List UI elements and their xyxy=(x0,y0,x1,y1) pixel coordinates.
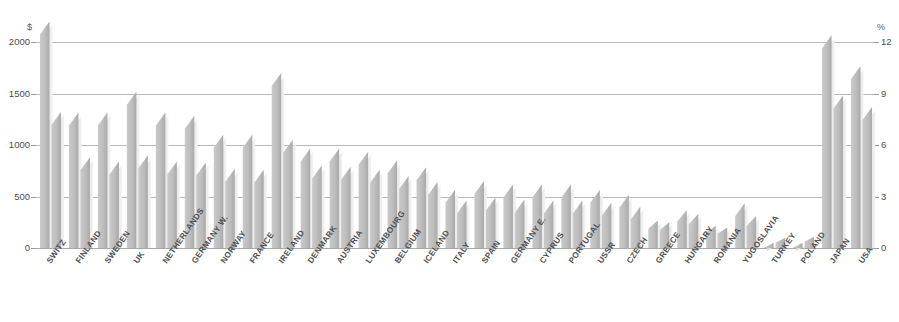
bar-dollar-austria xyxy=(341,167,351,248)
bar-percent-netherlands xyxy=(156,112,166,248)
bar-dollar-sweden xyxy=(109,161,119,248)
y-tick-right-9: 9 xyxy=(881,89,899,99)
bar-shadow-pct-22 xyxy=(680,213,690,248)
x-axis-label-switz: SWITZ xyxy=(45,238,68,265)
y-axis-left-unit-label: $ xyxy=(27,22,32,32)
bar-shadow-pct-1 xyxy=(72,115,82,248)
bar-dollar-netherlands xyxy=(167,161,177,248)
y-tick-mark-right xyxy=(874,42,879,43)
chart-container: $ % 0500100015002000 036912 SWITZFINLAND… xyxy=(0,0,899,322)
bar-shadow-dollar-3 xyxy=(141,158,151,248)
bar-shadow-pct-28 xyxy=(854,69,864,248)
x-axis-label-denmark: DENMARK xyxy=(306,224,339,265)
y-tick-right-12: 12 xyxy=(881,37,899,47)
y-tick-left-0: 0 xyxy=(0,243,30,253)
bar-dollar-uk xyxy=(138,155,148,248)
bar-shadow-pct-27 xyxy=(825,38,835,248)
y-tick-mark-left xyxy=(31,248,36,249)
bar-shadow-dollar-8 xyxy=(286,143,296,248)
bar-shadow-pct-24 xyxy=(738,206,748,248)
x-axis-label-austria: AUSTRIA xyxy=(335,228,364,265)
bar-shadow-dollar-28 xyxy=(866,110,876,248)
y-tick-right-3: 3 xyxy=(881,192,899,202)
x-axis-label-ireland: IRELAND xyxy=(277,228,306,265)
bar-percent-switz xyxy=(40,21,50,248)
x-axis-label-uk: UK xyxy=(132,250,147,265)
bar-percent-japan xyxy=(822,35,832,248)
x-axis-label-ussr: USSR xyxy=(596,240,617,265)
x-axis-label-spain: SPAIN xyxy=(480,239,502,265)
y-tick-mark-left xyxy=(31,42,36,43)
y-tick-mark-left xyxy=(31,197,36,198)
bar-dollar-switz xyxy=(51,112,61,248)
bar-dollar-denmark xyxy=(312,166,322,248)
y-axis-right-unit-label: % xyxy=(877,22,885,32)
y-tick-right-0: 0 xyxy=(881,243,899,253)
bar-percent-finland xyxy=(69,112,79,248)
bar-shadow-dollar-0 xyxy=(54,115,64,248)
bar-shadow-pct-13 xyxy=(420,170,430,248)
gridline-2000 xyxy=(34,42,876,43)
x-axis-label-belgium: BELGIUM xyxy=(393,227,423,265)
bar-percent-yugoslavia xyxy=(735,203,745,248)
y-tick-right-6: 6 xyxy=(881,140,899,150)
bar-shadow-pct-3 xyxy=(130,95,140,248)
y-tick-mark-right xyxy=(874,248,879,249)
y-tick-left-500: 500 xyxy=(0,192,30,202)
bar-dollar-finland xyxy=(80,157,90,248)
bar-dollar-luxembourg xyxy=(370,170,380,248)
bar-shadow-pct-7 xyxy=(246,138,256,248)
y-tick-left-2000: 2000 xyxy=(0,37,30,47)
bar-percent-czech xyxy=(619,195,629,248)
gridline-500 xyxy=(34,197,876,198)
bar-shadow-pct-20 xyxy=(622,198,632,248)
y-tick-mark-right xyxy=(874,197,879,198)
bar-percent-sweden xyxy=(98,112,108,248)
bar-percent-germany-e- xyxy=(503,184,513,248)
bar-dollar-usa xyxy=(863,107,873,248)
x-axis-label-czech: CZECH xyxy=(625,236,649,265)
bar-shadow-pct-2 xyxy=(101,115,111,248)
bar-shadow-pct-15 xyxy=(477,184,487,248)
x-axis-label-finland: FINLAND xyxy=(74,229,103,265)
bar-dollar-japan xyxy=(834,96,844,248)
y-tick-mark-left xyxy=(31,94,36,95)
bar-percent-uk xyxy=(127,92,136,248)
gridline-1000 xyxy=(34,145,876,146)
x-axis-label-japan: JAPAN xyxy=(828,237,852,266)
x-axis-label-iceland: ICELAND xyxy=(422,228,451,265)
bar-shadow-pct-0 xyxy=(43,24,53,248)
bar-shadow-pct-21 xyxy=(651,224,661,248)
y-tick-mark-right xyxy=(874,145,879,146)
y-tick-mark-right xyxy=(874,94,879,95)
bar-percent-ireland xyxy=(272,73,282,248)
y-tick-left-1500: 1500 xyxy=(0,89,30,99)
bar-dollar-ireland xyxy=(283,140,293,248)
bar-shadow-pct-8 xyxy=(275,76,285,248)
bar-percent-greece xyxy=(648,221,658,248)
bar-shadow-dollar-27 xyxy=(837,99,847,248)
y-tick-mark-left xyxy=(31,145,36,146)
bar-percent-hungary xyxy=(677,210,687,248)
bar-shadow-pct-4 xyxy=(159,115,169,248)
bar-percent-spain xyxy=(474,181,484,248)
gridline-1500 xyxy=(34,94,876,95)
bar-shadow-pct-14 xyxy=(449,193,459,248)
bars-layer xyxy=(0,0,899,322)
x-axis-label-italy: ITALY xyxy=(451,241,472,266)
bar-dollar-france xyxy=(254,170,264,248)
bar-dollar-norway xyxy=(225,169,235,248)
x-axis-label-romania: ROMANIA xyxy=(712,226,743,265)
x-axis-label-hungary: HUNGARY xyxy=(683,225,715,266)
y-tick-left-1000: 1000 xyxy=(0,140,30,150)
